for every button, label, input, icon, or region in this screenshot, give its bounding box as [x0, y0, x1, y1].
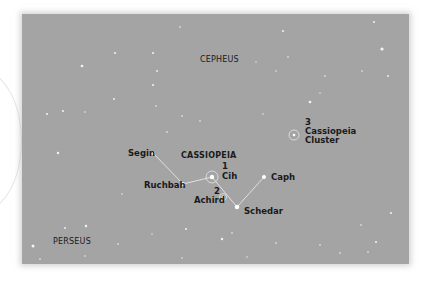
star-field-photo: CEPHEUS CASSIOPEIA PERSEUS Segin Ruchbah…	[22, 14, 409, 264]
star-number-cih: 1	[222, 162, 228, 171]
star-chart-overlay	[22, 14, 409, 264]
constellation-label-perseus: PERSEUS	[53, 238, 91, 246]
constellation-label-cepheus: CEPHEUS	[200, 56, 239, 64]
star-label-ruchbah: Ruchbah	[144, 181, 186, 190]
constellation-label-cassiopeia: CASSIOPEIA	[181, 152, 237, 160]
star-label-segin: Segin	[128, 149, 155, 158]
star-label-caph: Caph	[271, 173, 295, 182]
object-label-line2: Cluster	[305, 136, 339, 145]
decorative-arc	[0, 70, 22, 212]
star-label-achird: Achird	[194, 196, 225, 205]
star-label-cih: Cih	[222, 172, 237, 181]
star-label-schedar: Schedar	[244, 207, 283, 216]
